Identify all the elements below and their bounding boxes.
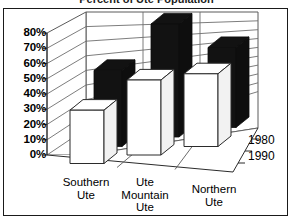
legend-label-1980: 1980: [248, 133, 275, 147]
y-tick-60: 60%: [24, 58, 46, 70]
x-label-northern-ute-line2: Ute: [172, 196, 256, 209]
y-tick-30: 30%: [24, 103, 46, 115]
chart-root: Percent of Ute Population: [0, 0, 293, 221]
y-tick-40: 40%: [24, 88, 46, 100]
y-tick-10: 10%: [24, 134, 46, 146]
legend-label-1990: 1990: [248, 149, 275, 163]
y-tick-70: 70%: [24, 42, 46, 54]
y-tick-20: 20%: [24, 119, 46, 131]
legend-item-1990: 1990: [248, 150, 275, 162]
y-tick-80: 80%: [24, 27, 46, 39]
legend-item-1980: 1980: [248, 134, 275, 146]
x-label-northern-ute-line1: Northern: [172, 183, 256, 196]
y-tick-0: 0%: [30, 149, 46, 161]
bar-southern-ute-1990: [70, 100, 117, 164]
y-tick-50: 50%: [24, 73, 46, 85]
bar-ute-mountain-ute-1990: [127, 69, 174, 155]
x-label-northern-ute: Northern Ute: [172, 183, 256, 208]
bar-northern-ute-1990: [184, 63, 231, 146]
